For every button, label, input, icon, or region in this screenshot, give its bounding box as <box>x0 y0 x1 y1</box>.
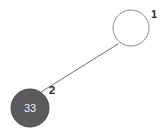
node-2-label: 2 <box>49 84 55 96</box>
node-link-graph: 33 1 2 <box>0 0 165 133</box>
node-2-value: 33 <box>24 102 36 114</box>
node-1-circle[interactable] <box>113 10 149 46</box>
node-1-label: 1 <box>151 8 157 20</box>
diagram-canvas: 33 1 2 <box>0 0 165 133</box>
